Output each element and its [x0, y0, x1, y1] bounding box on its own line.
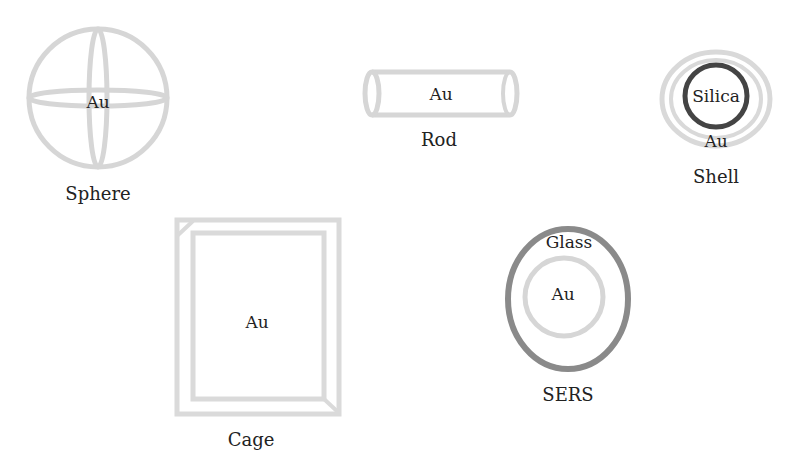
- sers-figure: Glass Au SERS: [508, 229, 628, 405]
- sers-core-label: Au: [550, 284, 574, 304]
- rod-right-cap-inner: [503, 72, 510, 115]
- rod-caption: Rod: [421, 129, 457, 150]
- shell-figure: Silica Au Shell: [662, 52, 770, 187]
- shell-core-label: Silica: [692, 86, 740, 106]
- sers-caption: SERS: [542, 384, 593, 405]
- nanoparticle-diagram: Au Sphere Au Rod Silica Au Shell Au Cage…: [0, 0, 791, 470]
- rod-right-cap: [510, 72, 517, 115]
- rod-material-label: Au: [428, 84, 452, 104]
- shell-caption: Shell: [693, 166, 739, 187]
- cage-caption: Cage: [228, 429, 275, 450]
- rod-figure: Au Rod: [365, 72, 517, 150]
- rod-left-cap: [365, 72, 379, 115]
- cage-figure: Au Cage: [177, 220, 339, 450]
- sers-coating-label: Glass: [546, 232, 593, 252]
- sphere-figure: Au Sphere: [29, 29, 167, 204]
- sphere-caption: Sphere: [65, 183, 130, 204]
- shell-coating-label: Au: [703, 131, 727, 151]
- cage-material-label: Au: [244, 312, 268, 332]
- sphere-material-label: Au: [85, 92, 109, 112]
